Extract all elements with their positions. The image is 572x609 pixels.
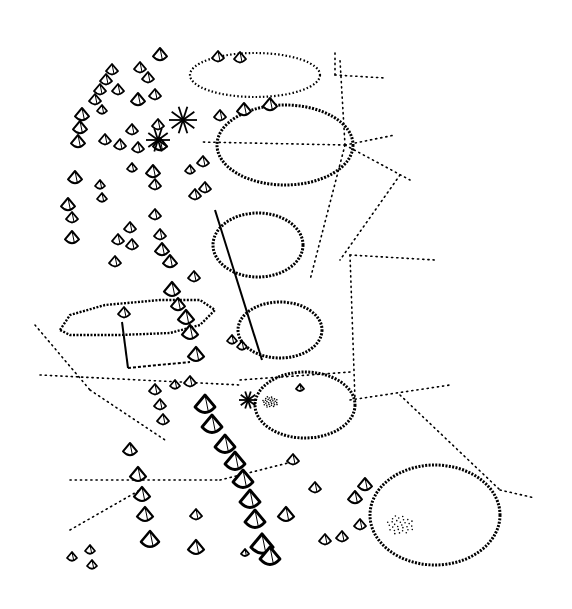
stipple-dot bbox=[268, 404, 270, 406]
stipple-dot bbox=[276, 402, 278, 404]
stipple-dot bbox=[266, 404, 268, 406]
stipple-dot bbox=[268, 397, 270, 399]
stipple-dot bbox=[267, 399, 269, 401]
stipple-dot bbox=[387, 521, 389, 523]
stipple-dot bbox=[265, 399, 267, 401]
stipple-dot bbox=[402, 530, 404, 532]
stipple-dot bbox=[392, 526, 394, 528]
stipple-dot bbox=[395, 515, 397, 517]
stipple-dot bbox=[265, 402, 267, 404]
stipple-dot bbox=[405, 532, 407, 534]
stipple-dot bbox=[392, 518, 394, 520]
stipple-dot bbox=[407, 519, 409, 521]
stipple-dot bbox=[406, 526, 408, 528]
stipple-dot bbox=[274, 398, 276, 400]
stipple-dot bbox=[398, 529, 400, 531]
stipple-dot bbox=[266, 401, 268, 403]
stipple-dot bbox=[397, 526, 399, 528]
stipple-dot bbox=[399, 532, 401, 534]
stipple-dot bbox=[264, 404, 266, 406]
stipple-dot bbox=[269, 400, 271, 402]
stipple-dot bbox=[394, 533, 396, 535]
stipple-dot bbox=[389, 529, 391, 531]
stipple-dot bbox=[411, 529, 413, 531]
drawing-svg bbox=[0, 0, 572, 609]
stipple-dot bbox=[265, 398, 267, 400]
stipple-dot bbox=[274, 400, 276, 402]
stipple-dot bbox=[274, 404, 276, 406]
stipple-dot bbox=[408, 523, 410, 525]
stipple-dot bbox=[398, 517, 400, 519]
stipple-dot bbox=[276, 404, 278, 406]
stipple-dot bbox=[394, 524, 396, 526]
stipple-dot bbox=[411, 520, 413, 522]
stipple-dot bbox=[273, 402, 275, 404]
stipple-dot bbox=[402, 516, 404, 518]
stipple-dot bbox=[400, 521, 402, 523]
stipple-dot bbox=[394, 530, 396, 532]
garden-plan-drawing bbox=[0, 0, 572, 609]
stipple-dot bbox=[401, 524, 403, 526]
stipple-dot bbox=[389, 525, 391, 527]
stipple-dot bbox=[396, 520, 398, 522]
stipple-dot bbox=[262, 400, 264, 402]
stipple-dot bbox=[268, 402, 270, 404]
stipple-dot bbox=[411, 525, 413, 527]
stipple-dot bbox=[403, 519, 405, 521]
stipple-dot bbox=[404, 522, 406, 524]
stipple-dot bbox=[271, 398, 273, 400]
stipple-dot bbox=[402, 527, 404, 529]
stipple-dot bbox=[407, 529, 409, 531]
stipple-dot bbox=[269, 406, 271, 408]
stipple-dot bbox=[271, 405, 273, 407]
stipple-dot bbox=[272, 400, 274, 402]
stipple-dot bbox=[270, 401, 272, 403]
stipple-dot bbox=[276, 399, 278, 401]
stipple-dot bbox=[263, 401, 265, 403]
stipple-dot bbox=[271, 396, 273, 398]
stipple-dot bbox=[273, 406, 275, 408]
stipple-dot bbox=[267, 396, 269, 398]
stipple-dot bbox=[391, 521, 393, 523]
stipple-dot bbox=[266, 406, 268, 408]
stipple-dot bbox=[271, 403, 273, 405]
